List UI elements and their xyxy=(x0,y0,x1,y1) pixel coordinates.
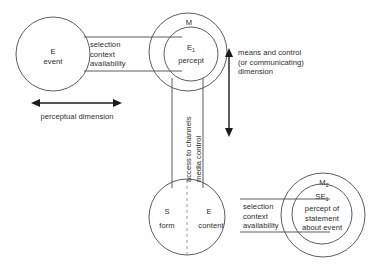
top-band-line3: availability xyxy=(90,59,170,68)
diagram-root: E event M E1 percept selection context a… xyxy=(0,0,379,269)
percept-inner-label: percept xyxy=(161,56,221,65)
means-dimension-line2: (or communicating) xyxy=(238,58,373,67)
top-band-line2: context xyxy=(90,50,170,59)
perceptual-arrow-head-right xyxy=(113,99,122,107)
means-dimension-line1: means and control xyxy=(238,48,373,57)
statement-right-symbol: E xyxy=(189,207,229,216)
top-band-line1: selection xyxy=(90,40,170,49)
means-arrow-head-top xyxy=(225,48,233,57)
means-dimension-line3: dimension xyxy=(238,67,373,76)
statement-right-label: content xyxy=(181,221,241,230)
perceptual-dimension-arrow xyxy=(31,99,122,107)
percept-inner-symbol-subscript: 1 xyxy=(192,47,195,53)
statement-percept-inner-symbol-text: SE xyxy=(315,192,325,201)
vertical-band-line2: media control xyxy=(194,72,203,182)
statement-percept-inner-symbol-subscript: 1 xyxy=(326,196,329,202)
perceptual-arrow-head-left xyxy=(31,99,40,107)
perceptual-dimension-label: perceptual dimension xyxy=(7,112,147,121)
statement-percept-outer-symbol: M2 xyxy=(304,178,344,188)
statement-percept-inner-line1: percept of xyxy=(287,204,357,213)
vertical-band-line1: access to channels xyxy=(184,72,193,182)
statement-percept-inner-line2: statement xyxy=(287,214,357,223)
statement-left-symbol: S xyxy=(147,207,187,216)
event-symbol: E xyxy=(23,47,83,56)
percept-outer-symbol: M xyxy=(169,18,209,27)
statement-percept-inner-symbol: SE1 xyxy=(297,192,347,202)
statement-percept-inner-line3: about event xyxy=(287,223,357,232)
statement-percept-outer-symbol-text: M xyxy=(319,178,325,187)
means-arrow-head-bottom xyxy=(225,128,233,137)
statement-percept-outer-symbol-subscript: 2 xyxy=(326,182,329,188)
percept-inner-symbol: E1 xyxy=(166,43,216,53)
event-label: event xyxy=(23,57,83,66)
